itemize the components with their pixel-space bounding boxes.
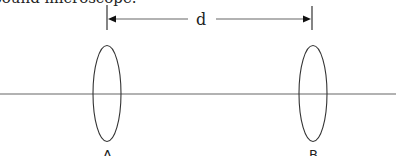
right-arrowhead-icon: [303, 16, 311, 23]
distance-label: d: [196, 10, 206, 29]
lens-a-label: A: [103, 147, 112, 156]
lens-diagram: d A B: [0, 0, 396, 156]
left-arrowhead-icon: [108, 16, 116, 23]
lens-b-label: B: [309, 147, 318, 156]
